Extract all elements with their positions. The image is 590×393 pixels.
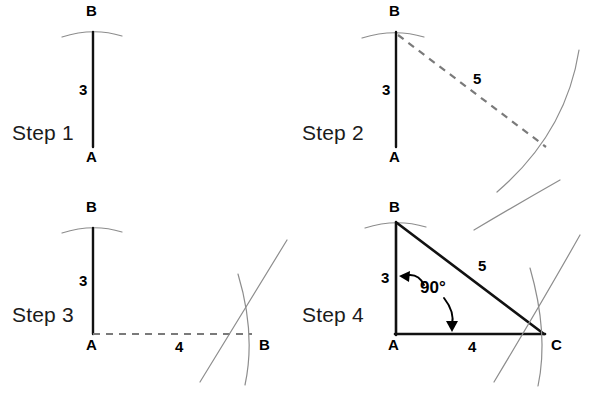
step4-point-b-label: B: [389, 198, 400, 215]
step1-point-a-label: A: [86, 148, 97, 165]
diagram-vector-layer: [0, 0, 590, 393]
step2-compass-arc-from-b: [497, 50, 579, 192]
step1-title: Step 1: [12, 121, 74, 145]
step3-title: Step 3: [12, 303, 74, 327]
step4-angle-arrow-to-leg-head: [399, 271, 410, 282]
step4-point-c-label: C: [551, 336, 562, 353]
step3-point-b-right-label: B: [259, 336, 270, 353]
step3-graphics: [62, 228, 287, 385]
step4-angle-arrow-to-base-path: [444, 298, 453, 325]
step3-point-b-top-label: B: [86, 198, 97, 215]
step4-stray-arc-tail: [474, 180, 560, 230]
step1-length-ab-label: 3: [79, 81, 87, 98]
step4-title: Step 4: [302, 303, 364, 327]
step2-title: Step 2: [302, 121, 364, 145]
step3-compass-arc-from-a: [238, 274, 249, 385]
step3-length-ab-label: 3: [79, 272, 87, 289]
step4-compass-arc-from-b: [494, 235, 580, 382]
step2-graphics: [362, 32, 579, 192]
step2-point-b-label: B: [389, 2, 400, 19]
step4-length-ab-label: 3: [381, 269, 389, 286]
step4-length-bc-label: 5: [478, 257, 486, 274]
step4-point-a-label: A: [388, 336, 399, 353]
step2-dashed-hypotenuse: [398, 35, 546, 147]
step1-point-b-label: B: [86, 2, 97, 19]
step2-length-hypotenuse-label: 5: [473, 70, 481, 87]
step2-length-ab-label: 3: [382, 81, 390, 98]
step4-length-ac-label: 4: [468, 338, 476, 355]
step3-compass-arc-from-b: [200, 240, 287, 382]
construction-diagram: Step 1 B A 3 Step 2 B A 3 5 Step 3 B A B…: [0, 0, 590, 393]
step3-point-a-label: A: [86, 336, 97, 353]
step3-length-base-label: 4: [175, 338, 183, 355]
step2-arc-at-b: [362, 33, 424, 38]
step4-right-angle-label: 90°: [420, 278, 446, 298]
step2-point-a-label: A: [389, 148, 400, 165]
step4-angle-arrow-to-base-head: [446, 321, 458, 332]
